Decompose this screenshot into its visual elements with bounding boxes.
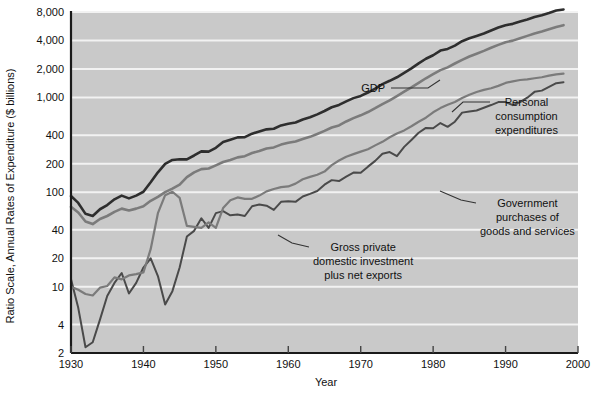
y-tick-label-4000: 4,000: [36, 34, 64, 46]
x-axis-title: Year: [315, 376, 338, 388]
plot-area-rect: [71, 12, 578, 353]
investment-annotation-line-0: Gross private: [330, 241, 395, 253]
x-tick-label-1960: 1960: [276, 358, 300, 370]
x-tick-label-1940: 1940: [131, 358, 155, 370]
investment-annotation-line-1: domestic investment: [313, 255, 413, 267]
y-tick-label-100: 100: [46, 186, 64, 198]
y-tick-label-2000: 2,000: [36, 63, 64, 75]
government-annotation-line-0: Government: [497, 197, 558, 209]
y-tick-label-1000: 1,000: [36, 91, 64, 103]
government-annotation-line-2: goods and services: [480, 225, 575, 237]
x-tick-label-1930: 1930: [59, 358, 83, 370]
x-tick-label-1970: 1970: [348, 358, 372, 370]
y-tick-label-400: 400: [46, 129, 64, 141]
y-tick-label-40: 40: [52, 224, 64, 236]
pce-annotation-line-0: Personal: [505, 96, 548, 108]
x-tick-label-2000: 2000: [566, 358, 590, 370]
expenditure-line-chart: 241020401002004001,0002,0004,0008,000 19…: [0, 0, 592, 394]
pce-annotation-line-2: expenditures: [495, 124, 558, 136]
pce-annotation-line-1: consumption: [495, 110, 557, 122]
government-annotation-line-1: purchases of: [496, 211, 560, 223]
y-tick-label-10: 10: [52, 281, 64, 293]
y-tick-label-20: 20: [52, 252, 64, 264]
gdp-annotation-line-0: GDP: [361, 82, 385, 94]
x-tick-label-1990: 1990: [493, 358, 517, 370]
y-tick-label-4: 4: [58, 319, 64, 331]
y-tick-label-200: 200: [46, 158, 64, 170]
chart-container: 241020401002004001,0002,0004,0008,000 19…: [0, 0, 592, 394]
investment-annotation-line-2: plus net exports: [324, 269, 402, 281]
x-tick-label-1980: 1980: [421, 358, 445, 370]
x-tick-label-1950: 1950: [204, 358, 228, 370]
y-axis-title: Ratio Scale, Annual Rates of Expenditure…: [4, 69, 16, 324]
y-tick-label-8000: 8,000: [36, 6, 64, 18]
plot-background: [71, 12, 578, 353]
